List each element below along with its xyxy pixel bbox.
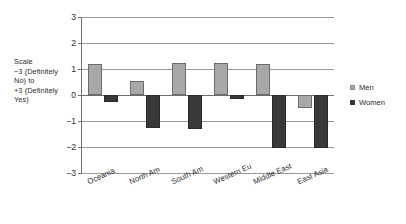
legend-item-men: Men (350, 80, 385, 95)
y-axis-scale-caption: Scale −3 (Definitely No) to +3 (Definite… (14, 57, 76, 105)
y-axis-tick-label: 2 (71, 38, 76, 48)
bar-western-eu-men (214, 63, 228, 96)
gridline-3 (82, 17, 334, 18)
bar-south-am-men (172, 63, 186, 96)
gridline-2 (82, 43, 334, 44)
bar-middle-east-women (272, 95, 286, 148)
y-axis-tick-3 (78, 17, 82, 18)
y-axis-tick--1 (78, 121, 82, 122)
y-axis-tick--3 (78, 173, 82, 174)
legend: MenWomen (350, 80, 385, 110)
gridline--2 (82, 147, 334, 148)
y-axis-tick-label: −3 (66, 168, 76, 178)
bar-north-am-women (146, 95, 160, 128)
bar-middle-east-men (256, 64, 270, 95)
gridline--3 (82, 173, 334, 174)
legend-swatch-women-icon (350, 100, 355, 105)
y-axis-tick-1 (78, 69, 82, 70)
y-axis-tick-label: −2 (66, 142, 76, 152)
bar-oceania-women (104, 95, 118, 102)
chart-screenshot: Scale −3 (Definitely No) to +3 (Definite… (0, 0, 406, 224)
bar-east-asia-women (314, 95, 328, 148)
y-axis-tick-2 (78, 43, 82, 44)
legend-label: Women (359, 98, 385, 107)
gridline-1 (82, 69, 334, 70)
plot-area: 3210−1−2−3 (81, 17, 333, 173)
bar-western-eu-women (230, 95, 244, 99)
bar-north-am-men (130, 81, 144, 95)
gridline-0 (82, 95, 334, 96)
y-axis-tick--2 (78, 147, 82, 148)
legend-label: Men (359, 83, 374, 92)
y-axis-tick-label: 1 (71, 64, 76, 74)
y-axis-tick-label: −1 (66, 116, 76, 126)
gridline--1 (82, 121, 334, 122)
y-axis-tick-0 (78, 95, 82, 96)
bar-south-am-women (188, 95, 202, 129)
legend-item-women: Women (350, 95, 385, 110)
y-axis-tick-label: 3 (71, 12, 76, 22)
bar-east-asia-men (298, 95, 312, 108)
legend-swatch-men-icon (350, 85, 355, 90)
y-axis-tick-label: 0 (71, 90, 76, 100)
bar-oceania-men (88, 64, 102, 95)
